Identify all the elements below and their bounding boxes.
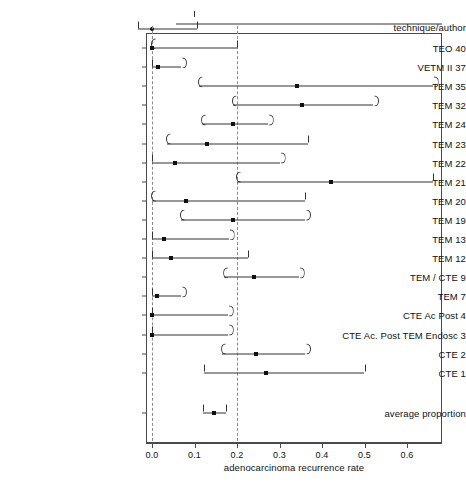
point-estimate-marker xyxy=(184,199,188,203)
row-axis-tick xyxy=(142,105,147,106)
row-axis-tick xyxy=(142,124,147,125)
confidence-interval-line xyxy=(152,48,237,49)
confidence-interval-line xyxy=(204,372,365,373)
point-estimate-marker xyxy=(212,411,216,415)
row-axis-tick xyxy=(142,315,147,316)
point-estimate-marker xyxy=(254,352,258,356)
point-estimate-marker xyxy=(264,371,268,375)
x-axis-tick xyxy=(407,443,408,448)
ci-lower-cap xyxy=(152,231,153,238)
reference-line-point-two xyxy=(237,26,238,446)
point-estimate-marker xyxy=(162,237,166,241)
row-axis-tick xyxy=(142,372,147,373)
row-axis-tick xyxy=(142,219,147,220)
row-label: TEM 7 xyxy=(322,291,466,302)
row-label: CTE Ac Post 4 xyxy=(322,310,466,321)
x-axis-tick xyxy=(365,443,366,448)
x-axis-tick xyxy=(152,443,153,448)
x-axis-tick-label: 0.4 xyxy=(315,450,328,460)
point-estimate-marker xyxy=(329,180,333,184)
ci-lower-cap xyxy=(152,250,153,257)
point-estimate-marker xyxy=(155,294,159,298)
row-label: average proportion xyxy=(322,407,466,418)
row-label: TEM 24 xyxy=(322,119,466,130)
clipped-ci-cap xyxy=(194,11,195,17)
row-label: CTE Ac. Post TEM Endosc 3 xyxy=(322,329,466,340)
ci-lower-cap xyxy=(138,21,139,28)
ci-upper-cap xyxy=(248,250,249,257)
forest-plot: technique/author TEO 40VETM II 37TEM 35T… xyxy=(0,0,466,487)
x-axis-tick xyxy=(280,443,281,448)
row-axis-tick xyxy=(142,200,147,201)
x-axis-tick xyxy=(237,443,238,448)
confidence-interval-line xyxy=(152,334,228,335)
confidence-interval-line xyxy=(138,29,197,30)
ci-lower-cap xyxy=(204,365,205,372)
row-axis-tick xyxy=(142,86,147,87)
confidence-interval-line xyxy=(167,143,309,144)
confidence-interval-line xyxy=(199,86,433,87)
ci-upper-cap xyxy=(226,405,227,412)
row-axis-tick xyxy=(142,143,147,144)
row-axis-tick xyxy=(142,334,147,335)
point-estimate-marker xyxy=(205,142,209,146)
ci-upper-cap xyxy=(308,136,309,143)
confidence-interval-line xyxy=(152,162,280,163)
x-axis-tick-label: 0.3 xyxy=(273,450,286,460)
point-estimate-marker xyxy=(295,84,299,88)
ci-lower-cap xyxy=(152,155,153,162)
x-axis-tick-label: 0.1 xyxy=(188,450,201,460)
point-estimate-marker xyxy=(300,103,304,107)
ci-upper-cap xyxy=(365,365,366,372)
ci-upper-cap xyxy=(237,40,238,47)
ci-upper-cap xyxy=(305,193,306,200)
confidence-interval-line xyxy=(152,258,248,259)
y-axis-title: technique/author xyxy=(322,22,466,33)
point-estimate-marker xyxy=(150,313,154,317)
x-axis-tick-label: 0.6 xyxy=(400,450,413,460)
x-axis-tick-label: 0.5 xyxy=(358,450,371,460)
x-axis-tick-label: 0.0 xyxy=(145,450,158,460)
confidence-interval-line xyxy=(237,181,433,182)
confidence-interval-line xyxy=(202,124,267,125)
row-label: TEM 22 xyxy=(322,157,466,168)
ci-lower-cap xyxy=(203,405,204,412)
ci-lower-cap xyxy=(152,288,153,295)
confidence-interval-line xyxy=(222,353,305,354)
row-axis-tick xyxy=(142,67,147,68)
row-label: TEM / CTE 9 xyxy=(322,272,466,283)
x-axis-tick-label: 0.2 xyxy=(230,450,243,460)
row-label: CTE 2 xyxy=(322,348,466,359)
point-estimate-marker xyxy=(231,218,235,222)
row-axis-tick xyxy=(142,353,147,354)
confidence-interval-line xyxy=(152,315,228,316)
row-label: TEM 13 xyxy=(322,234,466,245)
row-axis-tick xyxy=(142,277,147,278)
point-estimate-marker xyxy=(169,256,173,260)
row-label: TEM 12 xyxy=(322,253,466,264)
row-label: TEM 20 xyxy=(322,195,466,206)
x-axis-tick xyxy=(322,443,323,448)
row-axis-tick xyxy=(142,181,147,182)
point-estimate-marker xyxy=(150,333,154,337)
row-label: TEM 23 xyxy=(322,138,466,149)
point-estimate-marker xyxy=(173,161,177,165)
point-estimate-marker xyxy=(252,275,256,279)
ci-lower-cap xyxy=(152,59,153,66)
point-estimate-marker xyxy=(231,122,235,126)
row-label: TEO 40 xyxy=(322,43,466,54)
row-label: TEM 19 xyxy=(322,214,466,225)
ci-upper-cap xyxy=(197,21,198,28)
row-axis-tick xyxy=(142,296,147,297)
point-estimate-marker xyxy=(150,46,154,50)
confidence-interval-line xyxy=(181,219,305,220)
x-axis-tick xyxy=(195,443,196,448)
x-axis-title: adenocarcinoma recurrence rate xyxy=(224,462,364,473)
row-axis-tick xyxy=(142,48,147,49)
point-estimate-marker xyxy=(156,65,160,69)
x-axis-line xyxy=(146,443,442,444)
row-axis-tick xyxy=(142,239,147,240)
row-axis-tick xyxy=(142,162,147,163)
confidence-interval-line xyxy=(152,200,305,201)
row-axis-tick xyxy=(142,258,147,259)
